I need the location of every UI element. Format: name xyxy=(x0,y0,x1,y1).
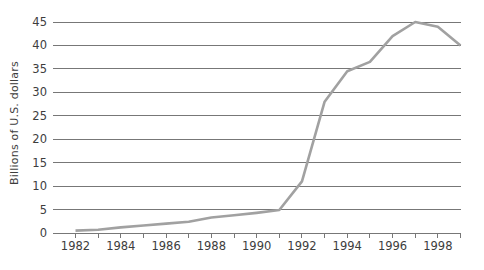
y-tick-label: 0 xyxy=(40,226,47,240)
x-tick-label: 1992 xyxy=(287,239,316,253)
x-tick-label: 1998 xyxy=(423,239,452,253)
line-chart-figure: Billions of U.S. dollars 051015202530354… xyxy=(0,0,484,270)
y-tick-label: 15 xyxy=(32,156,47,170)
x-tick-label: 1984 xyxy=(106,239,135,253)
y-tick-label: 20 xyxy=(32,132,47,146)
y-tick-label: 10 xyxy=(32,179,47,193)
y-tick-label: 45 xyxy=(32,15,47,29)
x-tick-label: 1996 xyxy=(378,239,407,253)
x-tick-label: 1990 xyxy=(242,239,271,253)
line-chart-canvas: 0510152025303540451982198419861988199019… xyxy=(0,0,484,270)
data-series-line xyxy=(76,22,461,231)
y-tick-label: 35 xyxy=(32,62,47,76)
x-tick-label: 1982 xyxy=(61,239,90,253)
x-tick-label: 1988 xyxy=(197,239,226,253)
y-tick-label: 25 xyxy=(32,109,47,123)
x-tick-label: 1994 xyxy=(333,239,362,253)
y-tick-label: 30 xyxy=(32,85,47,99)
y-tick-label: 40 xyxy=(32,38,47,52)
x-tick-label: 1986 xyxy=(151,239,180,253)
y-tick-label: 5 xyxy=(40,203,47,217)
